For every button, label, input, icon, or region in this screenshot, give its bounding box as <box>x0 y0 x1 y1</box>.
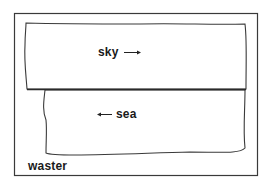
frame-label: waster <box>28 160 67 172</box>
sea-region <box>44 90 245 155</box>
sea-label: sea <box>116 108 137 120</box>
sky-label: sky <box>98 46 119 58</box>
sky-region <box>25 23 247 89</box>
